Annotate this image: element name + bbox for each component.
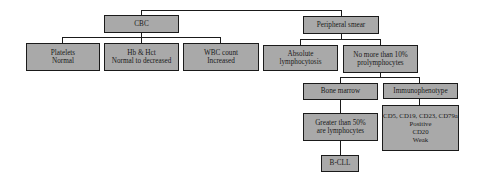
node-cbc: CBC <box>104 15 179 33</box>
node-immunophenotype: Immunophenotype <box>383 83 458 99</box>
node-label: Bone marrow <box>321 87 360 95</box>
connector-root-horizontal <box>141 10 342 11</box>
node-label: CD5, CD19, CD23, CD79a <box>383 112 458 120</box>
node-label: Increased <box>207 57 235 65</box>
node-label: B-CLL <box>330 159 351 167</box>
node-label: Hb & Hct <box>127 49 155 57</box>
node-label: Immunophenotype <box>393 87 447 95</box>
node-hb-hct: Hb & Hct Normal to decreased <box>104 43 179 71</box>
node-peripheral-smear: Peripheral smear <box>303 16 379 34</box>
node-label: Normal <box>52 57 74 65</box>
node-label: Weak <box>413 136 428 144</box>
node-immunophenotype-details: CD5, CD19, CD23, CD79a Positive CD20 Wea… <box>382 105 459 151</box>
node-label: are lymphocytes <box>317 127 364 135</box>
node-label: Platelets <box>51 49 75 57</box>
node-b-cll: B-CLL <box>321 155 359 172</box>
connector-marrow-to-50 <box>340 99 341 113</box>
node-label: No more than 10% <box>353 51 408 59</box>
node-label: CD20 <box>412 128 428 136</box>
node-label: lymphocytosis <box>280 58 322 66</box>
connector-50-to-bcll <box>340 140 341 155</box>
connector-smear-horizontal <box>300 39 381 40</box>
node-label: prolymphocytes <box>357 59 403 67</box>
node-absolute-lymphocytosis: Absolute lymphocytosis <box>263 45 338 71</box>
node-label: Absolute <box>288 50 314 58</box>
node-bone-marrow: Bone marrow <box>303 83 378 100</box>
node-prolymphocytes: No more than 10% prolymphocytes <box>343 45 418 73</box>
connector-prolymph-horizontal <box>340 77 420 78</box>
node-label: Greater than 50% <box>315 119 366 127</box>
node-greater-than-50: Greater than 50% are lymphocytes <box>303 113 378 141</box>
node-label: Peripheral smear <box>317 21 366 29</box>
node-label: CBC <box>134 20 148 28</box>
node-label: Positive <box>410 120 432 128</box>
node-label: Normal to decreased <box>112 57 171 65</box>
connector-immuno-to-details <box>419 98 420 105</box>
node-wbc: WBC count Increased <box>183 43 259 71</box>
node-label: WBC count <box>204 49 238 57</box>
node-platelets: Platelets Normal <box>26 43 100 71</box>
